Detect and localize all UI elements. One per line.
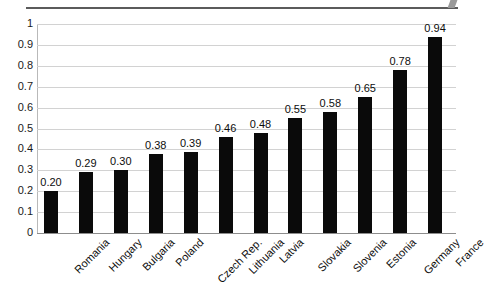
bar-group[interactable]: 0.38 bbox=[142, 24, 177, 233]
y-axis-tick-labels: 00.10.20.30.40.50.60.70.80.91 bbox=[0, 24, 33, 233]
bar-group[interactable]: 0.48 bbox=[247, 24, 282, 233]
bars-series: 0.200.290.300.380.390.460.480.550.580.65… bbox=[37, 24, 456, 233]
x-tick-label: Slovakia bbox=[315, 236, 353, 274]
x-tick-label: Estonia bbox=[384, 236, 418, 270]
bar[interactable] bbox=[428, 37, 442, 233]
bar[interactable] bbox=[393, 70, 407, 233]
y-tick-label-0.9: 0.9 bbox=[3, 39, 33, 50]
bar-group[interactable]: 0.30 bbox=[107, 24, 142, 233]
y-tick-label-0.3: 0.3 bbox=[3, 164, 33, 175]
x-tick-label: Bulgaria bbox=[140, 236, 177, 273]
bar-value-label: 0.58 bbox=[310, 98, 350, 109]
page-edge-artifact-line bbox=[26, 7, 458, 9]
plot-area: 0.200.290.300.380.390.460.480.550.580.65… bbox=[37, 24, 456, 233]
bar[interactable] bbox=[288, 118, 302, 233]
bar-value-label: 0.39 bbox=[171, 138, 211, 149]
bar[interactable] bbox=[149, 154, 163, 233]
bar[interactable] bbox=[254, 133, 268, 233]
y-tick-label-0.5: 0.5 bbox=[3, 123, 33, 134]
bar-group[interactable]: 0.55 bbox=[281, 24, 316, 233]
x-tick-label: Romania bbox=[72, 236, 112, 276]
bar-group[interactable]: 0.20 bbox=[37, 24, 72, 233]
bar-value-label: 0.65 bbox=[345, 83, 385, 94]
bar[interactable] bbox=[114, 170, 128, 233]
bar[interactable] bbox=[323, 112, 337, 233]
bar[interactable] bbox=[184, 152, 198, 234]
bar-value-label: 0.20 bbox=[31, 177, 71, 188]
y-tick-label-0: 0 bbox=[3, 227, 33, 238]
x-tick-label: Poland bbox=[173, 236, 206, 269]
y-tick-label-0.2: 0.2 bbox=[3, 185, 33, 196]
bar-group[interactable]: 0.29 bbox=[72, 24, 107, 233]
bar-group[interactable]: 0.94 bbox=[421, 24, 456, 233]
y-tick-label-0.4: 0.4 bbox=[3, 143, 33, 154]
bar-value-label: 0.30 bbox=[101, 156, 141, 167]
y-tick-label-0.7: 0.7 bbox=[3, 81, 33, 92]
y-tick-label-0.8: 0.8 bbox=[3, 60, 33, 71]
x-axis-category-labels: RomaniaHungaryBulgariaPolandCzech Rep.Li… bbox=[37, 234, 456, 296]
y-tick-label-0.1: 0.1 bbox=[3, 206, 33, 217]
x-tick-label: Hungary bbox=[106, 236, 144, 274]
x-tick-label: Slovenia bbox=[350, 236, 388, 274]
bar-value-label: 0.94 bbox=[415, 23, 455, 34]
bar-value-label: 0.78 bbox=[380, 56, 420, 67]
bar[interactable] bbox=[79, 172, 93, 233]
bar[interactable] bbox=[219, 137, 233, 233]
bar-group[interactable]: 0.58 bbox=[316, 24, 351, 233]
y-tick-label-0.6: 0.6 bbox=[3, 102, 33, 113]
bar-value-label: 0.48 bbox=[241, 119, 281, 130]
bar[interactable] bbox=[44, 191, 58, 233]
y-tick-label-1: 1 bbox=[3, 18, 33, 29]
bar[interactable] bbox=[358, 97, 372, 233]
bar-group[interactable]: 0.78 bbox=[386, 24, 421, 233]
